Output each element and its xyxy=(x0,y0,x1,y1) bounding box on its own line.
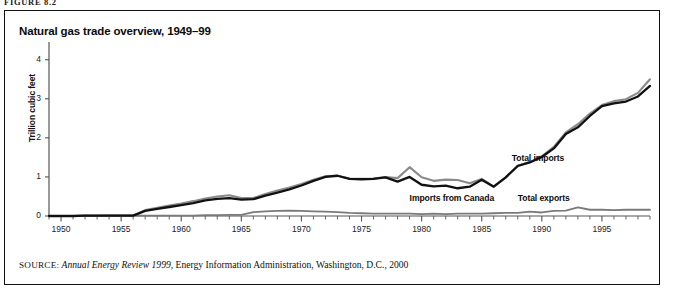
y-tick-label: 3 xyxy=(23,93,41,103)
y-tick-label: 4 xyxy=(23,54,41,64)
x-tick-label: 1990 xyxy=(524,224,560,234)
figure-frame: Natural gas trade overview, 1949–99 Tril… xyxy=(4,10,660,285)
x-tick-label: 1985 xyxy=(464,224,500,234)
chart-annotation: Total imports xyxy=(512,153,565,163)
plot-area: Trillion cubic feet 01234195019551960196… xyxy=(5,11,661,286)
figure-label: FIGURE 8.2 xyxy=(4,0,57,7)
x-tick-label: 1975 xyxy=(344,224,380,234)
x-tick-label: 1970 xyxy=(283,224,319,234)
x-tick-label: 1950 xyxy=(43,224,79,234)
x-tick-label: 1960 xyxy=(163,224,199,234)
source-rest: , Energy Information Administration, Was… xyxy=(171,259,409,270)
x-tick-label: 1980 xyxy=(404,224,440,234)
y-tick-label: 1 xyxy=(23,171,41,181)
source-prefix: SOURCE: xyxy=(19,260,59,270)
chart-annotation: Imports from Canada xyxy=(410,193,495,203)
source-title: Annual Energy Review 1999 xyxy=(62,259,171,270)
source-note: SOURCE: Annual Energy Review 1999, Energ… xyxy=(19,259,408,270)
x-tick-label: 1965 xyxy=(223,224,259,234)
x-tick-label: 1955 xyxy=(103,224,139,234)
x-tick-label: 1995 xyxy=(584,224,620,234)
y-tick-label: 2 xyxy=(23,132,41,142)
chart-svg xyxy=(5,11,661,286)
chart-annotation: Total exports xyxy=(518,193,570,203)
y-tick-label: 0 xyxy=(23,210,41,220)
figure-container: FIGURE 8.2 Natural gas trade overview, 1… xyxy=(0,0,674,298)
